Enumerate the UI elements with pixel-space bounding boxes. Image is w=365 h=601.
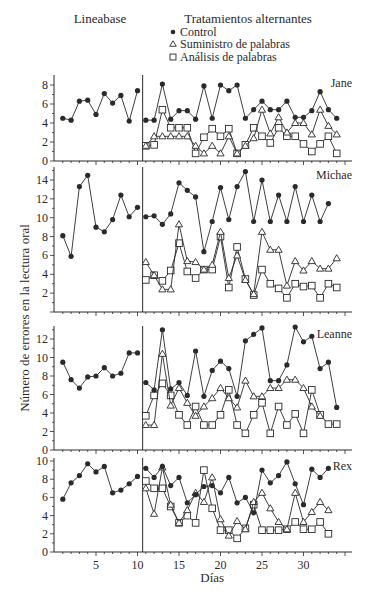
x-axis-labels: 51015202530Días — [93, 558, 310, 585]
y-tick-label: 2 — [42, 286, 48, 300]
filled-circle-marker — [235, 394, 240, 399]
y-tick-label: 0 — [42, 545, 48, 559]
baseline-phase-label: Lineabase — [74, 11, 127, 26]
open-triangle-marker — [308, 131, 315, 137]
filled-circle-marker — [210, 219, 215, 224]
filled-circle-marker — [226, 475, 231, 480]
x-tick-label: 30 — [298, 558, 310, 572]
filled-circle-marker — [293, 184, 298, 189]
open-square-marker — [300, 430, 307, 437]
open-triangle-marker — [142, 485, 149, 491]
open-triangle-marker — [300, 119, 307, 125]
filled-circle-marker — [293, 481, 298, 486]
filled-circle-marker — [276, 378, 281, 383]
y-tick-label: 2 — [42, 527, 48, 541]
multi-panel-line-chart: LineabaseTratamientos alternantesControl… — [0, 0, 365, 601]
filled-circle-marker — [276, 473, 281, 478]
filled-circle-marker — [309, 334, 314, 339]
open-square-marker — [201, 467, 208, 474]
filled-circle-marker — [268, 378, 273, 383]
filled-circle-marker — [293, 324, 298, 329]
open-square-marker — [275, 124, 282, 131]
open-square-marker — [333, 284, 340, 291]
filled-circle-marker — [185, 188, 190, 193]
filled-circle-marker — [301, 339, 306, 344]
filled-circle-marker — [77, 99, 82, 104]
open-square-marker — [325, 280, 332, 287]
legend-label-supply: Suministro de palabras — [180, 37, 290, 51]
filled-circle-marker — [77, 473, 82, 478]
filled-circle-marker — [210, 368, 215, 373]
y-tick-label: 4 — [42, 116, 48, 130]
open-square-marker — [184, 124, 191, 131]
open-triangle-marker — [234, 517, 241, 523]
open-square-marker — [309, 148, 316, 155]
filled-circle-marker — [251, 107, 256, 112]
filled-circle-marker — [301, 219, 306, 224]
filled-circle-marker — [226, 88, 231, 93]
open-square-marker — [184, 422, 191, 429]
filled-circle-marker — [218, 359, 223, 364]
filled-circle-marker — [293, 115, 298, 120]
filled-circle-marker — [301, 115, 306, 120]
open-triangle-marker — [258, 489, 265, 495]
open-triangle-marker — [317, 498, 324, 504]
open-triangle-marker — [250, 393, 257, 399]
filled-circle-marker — [102, 365, 107, 370]
baseline-control-series — [60, 173, 140, 259]
filled-circle-marker — [176, 380, 181, 385]
legend-label-analysis: Análisis de palabras — [180, 50, 277, 64]
filled-circle-marker — [60, 116, 65, 121]
filled-circle-marker — [284, 219, 289, 224]
open-square-marker — [267, 527, 274, 534]
open-square-marker — [333, 421, 340, 428]
open-triangle-marker — [275, 114, 282, 120]
filled-circle-marker — [185, 108, 190, 113]
open-triangle-marker — [333, 255, 340, 261]
filled-circle-marker — [160, 327, 165, 332]
filled-circle-marker — [85, 374, 90, 379]
filled-circle-marker — [135, 350, 140, 355]
open-triangle-marker — [151, 421, 158, 427]
open-triangle-marker — [317, 106, 324, 112]
filled-circle-marker — [193, 194, 198, 199]
filled-circle-marker — [102, 229, 107, 234]
open-triangle-marker — [175, 221, 182, 227]
filled-circle-marker — [226, 366, 231, 371]
y-tick-label: 8 — [42, 78, 48, 92]
open-square-marker — [267, 430, 274, 437]
series-line — [146, 172, 329, 252]
filled-circle-marker — [85, 173, 90, 178]
open-triangle-marker — [142, 421, 149, 427]
open-square-marker — [217, 527, 224, 534]
open-square-marker — [292, 411, 299, 418]
filled-circle-marker — [201, 83, 206, 88]
filled-circle-marker — [93, 469, 98, 474]
open-square-marker — [151, 485, 158, 492]
participant-name: Leanne — [317, 327, 352, 341]
filled-circle-marker — [243, 495, 248, 500]
filled-circle-marker — [127, 350, 132, 355]
filled-circle-marker — [168, 386, 173, 391]
open-triangle-marker — [267, 246, 274, 252]
open-square-marker — [259, 266, 266, 273]
filled-circle-marker — [276, 192, 281, 197]
open-square-marker — [275, 285, 282, 292]
filled-circle-marker — [171, 30, 176, 35]
filled-circle-marker — [160, 222, 165, 227]
open-square-marker — [234, 535, 241, 542]
filled-circle-marker — [318, 219, 323, 224]
open-square-marker — [300, 283, 307, 290]
filled-circle-marker — [309, 192, 314, 197]
filled-circle-marker — [309, 467, 314, 472]
filled-circle-marker — [118, 192, 123, 197]
y-axis-label: Número de errores en la lectura oral — [17, 224, 32, 412]
filled-circle-marker — [127, 119, 132, 124]
series-line — [146, 110, 337, 154]
panel-rex: 0246810Rex — [36, 454, 352, 559]
filled-circle-marker — [93, 225, 98, 230]
open-square-marker — [151, 142, 158, 149]
y-tick-label: 10 — [36, 351, 48, 365]
open-square-marker — [259, 133, 266, 140]
filled-circle-marker — [201, 394, 206, 399]
